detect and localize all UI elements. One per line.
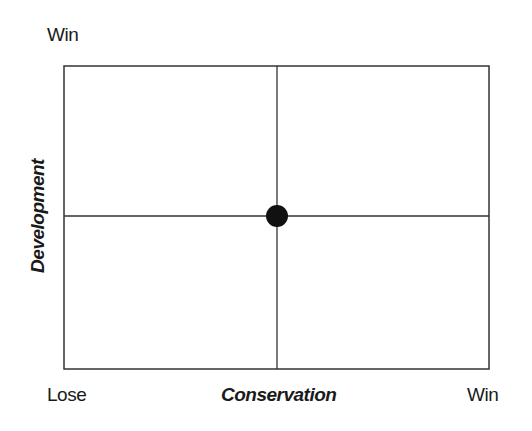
y-axis-top-label: Win [47, 24, 78, 46]
y-axis-title: Development [27, 159, 49, 273]
x-axis-left-label: Lose [47, 384, 86, 406]
x-axis-right-label: Win [467, 384, 498, 406]
center-point [266, 205, 288, 227]
x-axis-title: Conservation [221, 384, 336, 406]
quadrant-grid [0, 0, 532, 431]
